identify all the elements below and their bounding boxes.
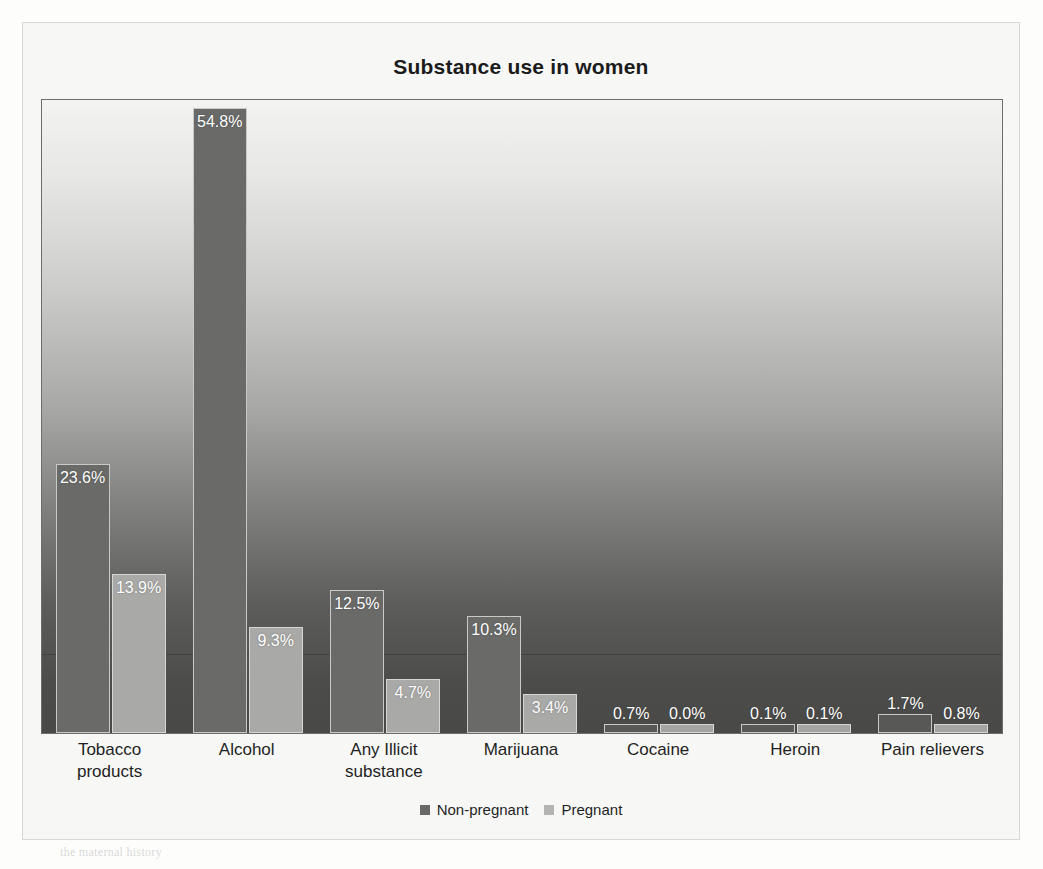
bar-value-label: 0.1%: [798, 705, 850, 723]
ghost-text-line: the maternal history: [60, 845, 162, 860]
chart-legend: Non-pregnantPregnant: [23, 801, 1019, 818]
category-label: Marijuana: [452, 739, 589, 761]
chart-frame: Substance use in women 23.6%13.9%54.8%9.…: [22, 22, 1020, 840]
legend-swatch-icon: [544, 805, 554, 815]
category-label-line: products: [41, 761, 178, 783]
legend-item[interactable]: Non-pregnant: [420, 801, 529, 818]
bar-value-label: 9.3%: [250, 632, 302, 650]
category-label-line: Any Illicit: [315, 739, 452, 761]
category-label-line: Marijuana: [452, 739, 589, 761]
plot-area: 23.6%13.9%54.8%9.3%12.5%4.7%10.3%3.4%0.7…: [41, 99, 1003, 734]
legend-label: Pregnant: [561, 801, 622, 818]
bar-value-label: 13.9%: [113, 579, 165, 597]
bar-group: 23.6%13.9%: [56, 100, 166, 733]
category-axis: TobaccoproductsAlcoholAny Illicitsubstan…: [41, 739, 1003, 797]
legend-item[interactable]: Pregnant: [544, 801, 622, 818]
bars-layer: 23.6%13.9%54.8%9.3%12.5%4.7%10.3%3.4%0.7…: [42, 100, 1002, 733]
bar-value-label: 10.3%: [468, 621, 520, 639]
category-label: Cocaine: [590, 739, 727, 761]
category-label: Alcohol: [178, 739, 315, 761]
bar-group: 1.7%0.8%: [878, 100, 988, 733]
bar-pregnant[interactable]: 3.4%: [523, 694, 577, 733]
bar-value-label: 0.7%: [605, 705, 657, 723]
bar-non-pregnant[interactable]: 0.7%: [604, 724, 658, 733]
bar-pregnant[interactable]: 0.0%: [660, 724, 714, 733]
bar-value-label: 0.8%: [935, 705, 987, 723]
bar-value-label: 4.7%: [387, 684, 439, 702]
bar-non-pregnant[interactable]: 54.8%: [193, 108, 247, 733]
category-label-line: Alcohol: [178, 739, 315, 761]
bar-pregnant[interactable]: 13.9%: [112, 574, 166, 733]
bar-pregnant[interactable]: 0.8%: [934, 724, 988, 733]
bar-value-label: 54.8%: [194, 113, 246, 131]
bar-non-pregnant[interactable]: 1.7%: [878, 714, 932, 733]
page-background: per the study Neonatal Withdrawal / Neon…: [0, 0, 1043, 869]
legend-swatch-icon: [420, 805, 430, 815]
category-label: Tobaccoproducts: [41, 739, 178, 783]
chart-title: Substance use in women: [23, 55, 1019, 79]
bar-value-label: 0.1%: [742, 705, 794, 723]
category-label-line: substance: [315, 761, 452, 783]
category-label: Pain relievers: [864, 739, 1001, 761]
category-label: Any Illicitsubstance: [315, 739, 452, 783]
category-label-line: Tobacco: [41, 739, 178, 761]
bar-value-label: 0.0%: [661, 705, 713, 723]
bar-value-label: 12.5%: [331, 595, 383, 613]
bar-non-pregnant[interactable]: 23.6%: [56, 464, 110, 733]
category-label: Heroin: [727, 739, 864, 761]
bar-value-label: 23.6%: [57, 469, 109, 487]
bar-group: 12.5%4.7%: [330, 100, 440, 733]
bar-group: 54.8%9.3%: [193, 100, 303, 733]
bar-non-pregnant[interactable]: 10.3%: [467, 616, 521, 733]
category-label-line: Heroin: [727, 739, 864, 761]
bar-pregnant[interactable]: 4.7%: [386, 679, 440, 733]
bar-group: 10.3%3.4%: [467, 100, 577, 733]
bar-non-pregnant[interactable]: 0.1%: [741, 724, 795, 733]
bar-pregnant[interactable]: 9.3%: [249, 627, 303, 733]
bar-group: 0.1%0.1%: [741, 100, 851, 733]
legend-label: Non-pregnant: [437, 801, 529, 818]
bar-value-label: 1.7%: [879, 695, 931, 713]
bar-group: 0.7%0.0%: [604, 100, 714, 733]
category-label-line: Cocaine: [590, 739, 727, 761]
bar-value-label: 3.4%: [524, 699, 576, 717]
bar-non-pregnant[interactable]: 12.5%: [330, 590, 384, 733]
bar-pregnant[interactable]: 0.1%: [797, 724, 851, 733]
category-label-line: Pain relievers: [864, 739, 1001, 761]
